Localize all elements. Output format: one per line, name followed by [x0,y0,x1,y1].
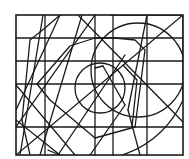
line-segment [128,15,147,110]
figure-canvas [0,0,189,159]
vertical-grid-lines [45,15,147,155]
line-segment [95,66,103,68]
horizontal-grid-lines [16,38,183,127]
geometry-figure [0,0,189,159]
circle-shape [75,63,125,113]
line-segment [16,15,95,127]
line-segment [20,15,43,155]
line-segment [78,15,183,122]
